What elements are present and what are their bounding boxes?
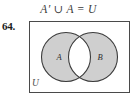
venn-diagram: A B bbox=[29, 21, 130, 93]
circle-b-label: B bbox=[97, 52, 102, 62]
set-identity-equation: A′ ∪ A = U bbox=[0, 0, 137, 18]
circle-a-label: A bbox=[55, 52, 62, 62]
exercise-figure: A′ ∪ A = U 64. U A B bbox=[0, 0, 137, 98]
region-b-only-shading bbox=[29, 21, 130, 93]
exercise-number: 64. bbox=[2, 20, 15, 32]
